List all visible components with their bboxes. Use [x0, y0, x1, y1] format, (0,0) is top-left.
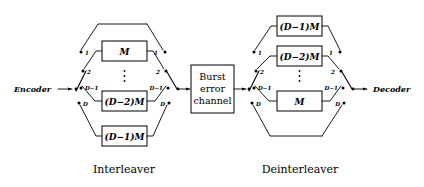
- interleaver-input-commutator: 1 2 D−1 D: [75, 50, 99, 107]
- interleaver-output-contact-3[interactable]: [167, 87, 170, 90]
- interleaver-ellipsis: [124, 70, 126, 82]
- deinterleaver-box-2-label: (D−2)M: [279, 52, 320, 62]
- interleaver-input-tap-label-2: 2: [86, 69, 91, 75]
- deinterleaver-branch1-left-wire: [255, 26, 277, 50]
- interleaver-input-contact-1[interactable]: [80, 51, 83, 54]
- deinterleaver-input-contact-2[interactable]: [255, 70, 258, 73]
- interleaver-block-diagram: Encoder 1 2 D−1 D M (D−2)M: [0, 0, 424, 187]
- interleaver-output-commutator: 1 2 D−1 D: [149, 50, 180, 107]
- interleaver-input-contact-2[interactable]: [82, 70, 85, 73]
- deinterleaver-branch2-right-wire: [322, 56, 339, 69]
- decoder-group: Decoder: [353, 84, 411, 94]
- burst-error-channel: Burst error channel: [191, 65, 234, 113]
- deinterleaver-output-contact-1[interactable]: [339, 51, 342, 54]
- interleaver-output-switch-arm[interactable]: [167, 72, 177, 89]
- deinterleaver-input-contact-1[interactable]: [253, 51, 256, 54]
- interleaver-output-tap-label-2: 2: [155, 69, 160, 75]
- deinterleaver-output-tap-label-2: 2: [330, 69, 335, 75]
- interleaver-box-3-label: (D−1)M: [104, 132, 145, 142]
- burst-error-channel-line2: error: [200, 83, 225, 94]
- interleaver-input-contact-3[interactable]: [80, 87, 83, 90]
- deinterleaver-branch1-right-wire: [322, 26, 340, 50]
- interleaver-box-1-label: M: [119, 47, 131, 57]
- encoder-group: Encoder: [13, 84, 72, 94]
- deinterleaver-output-contact-3[interactable]: [342, 87, 345, 90]
- burst-error-channel-line3: channel: [194, 95, 232, 106]
- deinterleaver-input-tap-label-1: 1: [258, 50, 262, 56]
- deinterleaver-output-tap-label-1: 1: [329, 50, 333, 56]
- interleaver-output-contact-1[interactable]: [164, 51, 167, 54]
- deinterleaver-box-1-label: (D−1)M: [279, 22, 320, 32]
- interleaver-caption: Interleaver: [93, 163, 156, 176]
- deinterleaver-branch2-left-wire: [257, 56, 277, 69]
- interleaver-input-contact-4[interactable]: [78, 102, 81, 105]
- interleaver-right-branch-wires: [147, 24, 167, 136]
- deinterleaver-input-contact-3[interactable]: [253, 87, 256, 90]
- interleaver-input-tap-label-1: 1: [85, 50, 89, 56]
- encoder-label: Encoder: [13, 84, 52, 94]
- deinterleaver-caption: Deinterleaver: [262, 163, 339, 176]
- interleaver-branch4-right-wire: [147, 105, 167, 136]
- interleaver-branch1-right-wire: [147, 24, 163, 50]
- deinterleaver-box-3-label: M: [294, 97, 306, 107]
- interleaver-output-contact-4[interactable]: [168, 102, 171, 105]
- interleaver-input-tap-label-3: D−1: [84, 85, 98, 91]
- interleaver-output-tap-label-3: D−1: [149, 85, 163, 91]
- interleaver-branch4-left-wire: [80, 105, 102, 136]
- interleaver-delay-boxes: M (D−2)M (D−1)M: [102, 41, 147, 146]
- interleaver-input-tap-label-4: D: [82, 101, 88, 107]
- deinterleaver-input-tap-label-4: D: [255, 101, 261, 107]
- deinterleaver-branch4-right-wire: [322, 105, 342, 136]
- deinterleaver-input-tap-label-2: 2: [259, 69, 264, 75]
- deinterleaver-output-switch-arm[interactable]: [342, 72, 352, 89]
- deinterleaver-ellipsis: [299, 70, 301, 82]
- deinterleaver-right-branch-wires: [322, 26, 342, 136]
- burst-error-channel-line1: Burst: [199, 71, 226, 82]
- deinterleaver-output-commutator: 1 2 D−1 D: [324, 50, 355, 107]
- deinterleaver-input-contact-4[interactable]: [251, 102, 254, 105]
- diagram-root: Encoder 1 2 D−1 D M (D−2)M: [0, 0, 424, 187]
- deinterleaver-output-tap-label-3: D−1: [324, 85, 338, 91]
- deinterleaver-output-contact-4[interactable]: [343, 102, 346, 105]
- interleaver-output-tap-label-4: D: [159, 101, 165, 107]
- deinterleaver-left-branch-wires: [253, 26, 322, 136]
- decoder-label: Decoder: [372, 84, 411, 94]
- deinterleaver-delay-boxes: (D−1)M (D−2)M M: [277, 16, 322, 111]
- interleaver-output-tap-label-1: 1: [154, 50, 158, 56]
- deinterleaver-output-tap-label-4: D: [334, 101, 340, 107]
- interleaver-box-2-label: (D−2)M: [104, 97, 145, 107]
